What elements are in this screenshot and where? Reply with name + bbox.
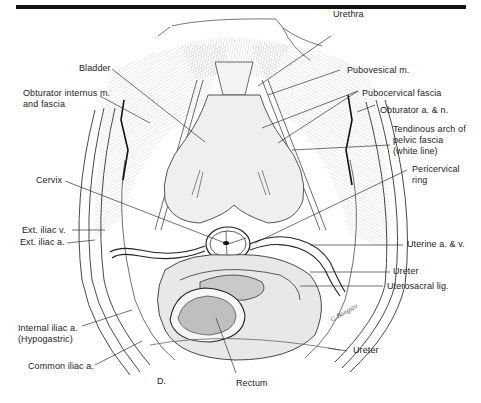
label-obturator-internus: Obturator internus m. and fascia [23, 88, 110, 110]
label-pubovesical: Pubovesical m. [347, 65, 409, 76]
label-common-iliac: Common iliac a. [28, 361, 94, 372]
label-rectum: Rectum [236, 378, 268, 389]
label-pericervical-ring: Pericervical ring [412, 164, 460, 186]
label-bladder: Bladder [79, 63, 111, 74]
label-pericervical-line2: ring [412, 175, 460, 186]
label-tendinous-line1: Tendinous arch of [393, 124, 466, 135]
label-uterosacral-ligament: Uterosacral lig. [387, 281, 449, 292]
label-ext-iliac-vein: Ext. iliac v. [22, 225, 66, 236]
panel-letter: D. [157, 376, 166, 387]
label-urethra: Urethra [333, 9, 364, 20]
label-obturator-artery-nerve: Obturator a. & n. [380, 105, 448, 116]
label-internal-iliac-line2: (Hypogastric) [18, 334, 78, 345]
label-pericervical-line1: Pericervical [412, 164, 460, 175]
label-ureter-lower: Ureter [353, 345, 379, 356]
label-tendinous-arch: Tendinous arch of pelvic fascia (white l… [393, 124, 466, 157]
artist-signature: G.Bongiov [329, 301, 360, 323]
label-obturator-internus-line2: and fascia [23, 99, 110, 110]
label-ext-iliac-artery: Ext. iliac a. [20, 237, 65, 248]
label-cervix: Cervix [36, 175, 62, 186]
label-tendinous-line2: pelvic fascia [393, 135, 466, 146]
label-tendinous-line3: (white line) [393, 146, 466, 157]
label-ureter-upper: Ureter [393, 266, 419, 277]
label-internal-iliac-line1: Internal iliac a. [18, 323, 78, 334]
label-internal-iliac: Internal iliac a. (Hypogastric) [18, 323, 78, 345]
urethra [215, 62, 253, 95]
label-uterine-vessels: Uterine a. & v. [407, 239, 465, 250]
label-obturator-internus-line1: Obturator internus m. [23, 88, 110, 99]
label-pubocervical-fascia: Pubocervical fascia [362, 88, 441, 99]
